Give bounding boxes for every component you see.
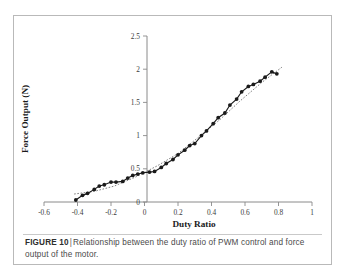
x-tick-label: -0.6 [38, 208, 50, 217]
data-point-marker [153, 170, 157, 174]
data-point-marker [102, 183, 106, 187]
y-tick-label: 2 [136, 65, 140, 74]
data-point-marker [136, 172, 140, 176]
y-tick-label: 1.5 [131, 98, 141, 107]
y-axis-title: Force Output (N) [20, 85, 30, 153]
data-point-marker [159, 166, 163, 170]
data-point-marker [275, 72, 279, 76]
x-tick-label: 0.2 [173, 208, 183, 217]
data-point-marker [81, 193, 85, 197]
data-point-marker [235, 97, 239, 101]
data-point-marker [97, 184, 101, 188]
data-point-marker [176, 153, 180, 157]
figure-panel: -0.6-0.4-0.200.20.40.60.81 00.511.522.5 … [13, 15, 332, 265]
force-vs-duty-ratio-chart: -0.6-0.4-0.200.20.40.60.81 00.511.522.5 … [14, 16, 331, 231]
data-point-marker [126, 176, 130, 180]
x-tick-label: -0.4 [72, 208, 84, 217]
y-tick-label: 2.5 [131, 32, 141, 41]
data-point-marker [246, 85, 250, 89]
data-point-marker [205, 129, 209, 133]
x-tick-label: 0.4 [207, 208, 217, 217]
data-point-marker [200, 134, 204, 138]
data-point-marker [141, 171, 145, 175]
x-tick-label: 1 [310, 208, 314, 217]
data-point-marker [193, 142, 197, 146]
data-point-marker [171, 158, 175, 162]
data-point-marker [109, 180, 113, 184]
y-tick-label: 0 [136, 198, 140, 207]
y-tick-label: 1 [136, 131, 140, 140]
data-point-marker [121, 180, 125, 184]
measured-series-line [76, 72, 277, 200]
data-point-marker [216, 116, 220, 120]
data-point-marker [228, 103, 232, 107]
data-point-marker [188, 144, 192, 148]
x-tick-label: 0 [143, 208, 147, 217]
figure-caption: FIGURE 10|Relationship between the duty … [25, 237, 323, 261]
data-point-marker [148, 170, 152, 174]
y-axis-ticks: 00.511.522.5 [131, 32, 147, 207]
x-axis-ticks: -0.6-0.4-0.200.20.40.60.81 [38, 202, 314, 217]
data-point-marker [114, 180, 118, 184]
data-point-marker [92, 187, 96, 191]
data-point-marker [258, 79, 262, 83]
data-point-marker [251, 83, 255, 87]
data-point-marker [223, 111, 227, 115]
data-point-marker [240, 90, 244, 94]
data-point-marker [86, 191, 90, 195]
x-tick-label: 0.6 [240, 208, 250, 217]
trend-line-series [74, 67, 282, 194]
data-point-marker [270, 70, 274, 74]
data-point-marker [211, 122, 215, 126]
measured-series-markers [74, 70, 279, 202]
x-tick-label: -0.2 [105, 208, 117, 217]
figure-number: FIGURE 10 [25, 238, 69, 247]
data-point-marker [183, 148, 187, 152]
data-point-marker [263, 75, 267, 79]
y-tick-label: 0.5 [131, 164, 141, 173]
data-point-marker [164, 162, 168, 166]
x-tick-label: 0.8 [274, 208, 284, 217]
chart-plot-area: -0.6-0.4-0.200.20.40.60.81 00.511.522.5 … [14, 16, 331, 231]
caption-divider [23, 234, 322, 235]
data-point-marker [74, 198, 78, 202]
data-point-marker [131, 174, 135, 178]
x-axis-title: Duty Ratio [172, 219, 216, 229]
